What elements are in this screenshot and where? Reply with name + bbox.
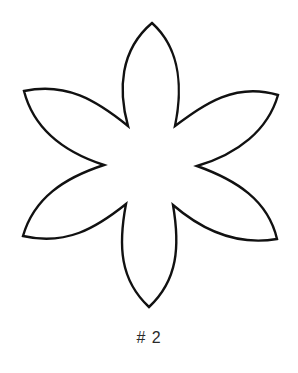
six-petal-flower-icon: [0, 0, 298, 373]
figure-caption: # 2: [0, 329, 298, 347]
flower-outline: [23, 23, 278, 307]
flower-template: [0, 0, 298, 373]
